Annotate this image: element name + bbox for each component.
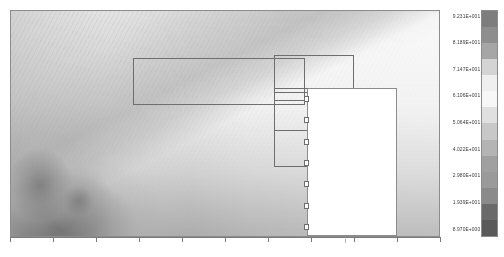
colorbar-gradient bbox=[482, 11, 497, 236]
colorbar-tick-label: 4.022E+001 bbox=[453, 146, 480, 152]
x-axis-tick bbox=[354, 237, 355, 242]
colorbar-tick-labels: 9.231E+0018.189E+0017.147E+0016.106E+001… bbox=[446, 0, 480, 257]
legend-marker-square bbox=[304, 203, 309, 209]
colorbar-tick-label: 2.980E+001 bbox=[453, 173, 480, 179]
legend-marker-square bbox=[304, 181, 309, 187]
colorbar-tick-label: 9.231E+001 bbox=[453, 13, 480, 19]
colorbar-tick-label: 1.939E+001 bbox=[453, 199, 480, 205]
x-axis-minor-mark bbox=[345, 239, 346, 243]
legend-marker-square bbox=[304, 160, 309, 166]
figure-canvas: 9.231E+0018.189E+0017.147E+0016.106E+001… bbox=[0, 0, 504, 257]
x-axis-tick bbox=[225, 237, 226, 242]
x-axis-tick bbox=[53, 237, 54, 242]
colorbar[interactable] bbox=[481, 10, 498, 237]
colorbar-tick-label: 7.147E+001 bbox=[453, 66, 480, 72]
x-axis-tick bbox=[397, 237, 398, 242]
colorbar-tick-label: 8.970E+000 bbox=[453, 226, 480, 232]
x-axis-tick bbox=[311, 237, 312, 242]
x-axis-tick bbox=[139, 237, 140, 242]
legend-marker-square bbox=[304, 96, 309, 102]
x-axis-tick bbox=[440, 237, 441, 242]
colorbar-tick-label: 6.106E+001 bbox=[453, 93, 480, 99]
legend-marker-square bbox=[304, 117, 309, 123]
x-axis-tick bbox=[182, 237, 183, 242]
x-axis-tick bbox=[268, 237, 269, 242]
colorbar-tick-label: 5.064E+001 bbox=[453, 120, 480, 126]
annotation-legend-box[interactable] bbox=[307, 88, 397, 236]
legend-marker-square bbox=[304, 224, 309, 230]
x-axis-tick bbox=[96, 237, 97, 242]
legend-marker-square bbox=[304, 139, 309, 145]
x-axis-tick bbox=[10, 237, 11, 242]
colorbar-tick-label: 8.189E+001 bbox=[453, 40, 480, 46]
